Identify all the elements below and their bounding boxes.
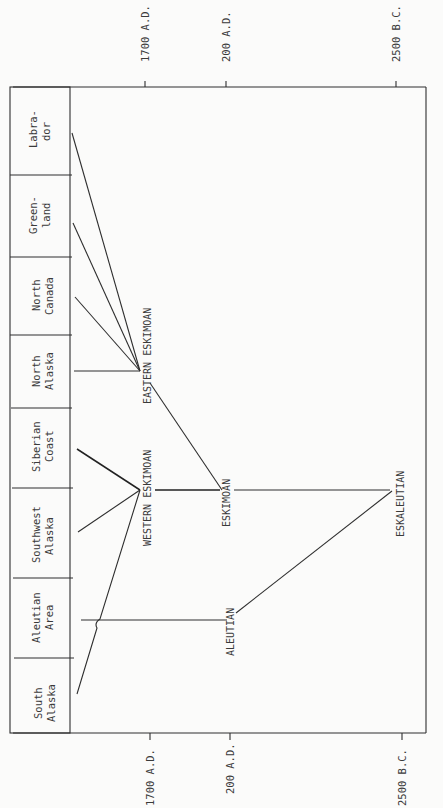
edge-labrador-eastern: [72, 133, 140, 371]
region-north-alaska: North Alaska: [30, 352, 55, 390]
region-southwest-alaska: Southwest Alaska: [30, 506, 55, 563]
svg-text:Siberian: Siberian: [30, 421, 42, 472]
tree-nodes: EASTERN ESKIMOAN WESTERN ESKIMOAN ESKIMO…: [142, 308, 406, 656]
svg-text:Alaska: Alaska: [43, 517, 55, 555]
node-eskimoan: ESKIMOAN: [221, 479, 232, 527]
region-boxes: Labra- dor Green- land North Canada Nort…: [10, 87, 74, 733]
top-axis-tick-2500bc: 2500 B.C.: [390, 5, 402, 62]
svg-text:Coast: Coast: [43, 430, 55, 462]
top-axis-tick-1700ad: 1700 A.D.: [139, 5, 151, 62]
bottom-axis-tick-200ad: 200 A.D.: [224, 743, 236, 794]
top-axis-tick-200ad: 200 A.D.: [220, 11, 232, 62]
svg-text:Area: Area: [43, 605, 55, 630]
svg-text:Alaska: Alaska: [43, 352, 55, 390]
svg-text:Aleutian: Aleutian: [30, 592, 42, 643]
svg-text:dor: dor: [40, 122, 52, 141]
node-eastern-eskimoan: EASTERN ESKIMOAN: [142, 308, 153, 404]
region-greenland: Green- land: [27, 196, 52, 234]
bottom-axis-tick-2500bc: 2500 B.C.: [396, 749, 408, 806]
svg-text:Canada: Canada: [43, 277, 55, 315]
svg-text:North: North: [30, 355, 42, 387]
edge-northcanada-eastern: [75, 297, 140, 371]
bottom-time-axis: 1700 A.D. 200 A.D. 2500 B.C.: [13, 733, 426, 806]
edge-siberian-western: [77, 449, 140, 490]
svg-text:land: land: [40, 203, 52, 228]
region-north-canada: North Canada: [30, 277, 55, 315]
eskaleutian-family-tree-diagram: 1700 A.D. 200 A.D. 2500 B.C. 1700 A.D. 2…: [0, 0, 443, 808]
edge-aleutian-eskaleutian: [236, 491, 392, 613]
svg-text:North: North: [30, 279, 42, 311]
svg-text:South: South: [32, 687, 44, 719]
edge-southalaska-western: [77, 490, 140, 694]
svg-text:Southwest: Southwest: [30, 506, 42, 563]
svg-text:Labra-: Labra-: [27, 110, 39, 148]
node-eskaleutian: ESKALEUTIAN: [395, 471, 406, 537]
svg-text:Green-: Green-: [27, 196, 39, 234]
bottom-axis-tick-1700ad: 1700 A.D.: [144, 749, 156, 806]
edge-southwest-western: [78, 490, 140, 532]
region-aleutian-area: Aleutian Area: [30, 592, 55, 643]
region-south-alaska: South Alaska: [32, 684, 57, 722]
node-aleutian: ALEUTIAN: [225, 608, 236, 656]
edge-greenland-eastern: [73, 223, 140, 371]
edge-eastern-eskimoan: [150, 383, 222, 490]
node-western-eskimoan: WESTERN ESKIMOAN: [142, 450, 153, 546]
region-labrador: Labra- dor: [27, 110, 52, 148]
svg-text:Alaska: Alaska: [45, 684, 57, 722]
top-time-axis: 1700 A.D. 200 A.D. 2500 B.C.: [13, 5, 426, 87]
region-siberian-coast: Siberian Coast: [30, 421, 55, 472]
